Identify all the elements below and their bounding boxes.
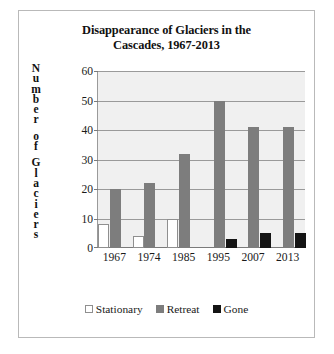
- legend-label: Retreat: [167, 303, 200, 315]
- bar-stationary-1974: [133, 236, 144, 248]
- chart-title-line-1: Disappearance of Glaciers in the: [19, 23, 314, 38]
- y-axis-tick-label: 40: [71, 124, 93, 137]
- y-axis-title-letter: f: [27, 141, 45, 151]
- y-axis-title-letter: r: [27, 114, 45, 124]
- chart-frame: Disappearance of Glaciers in the Cascade…: [18, 10, 315, 338]
- plot-wrapper: 0102030405060 196719741985199520072013: [71, 71, 309, 271]
- bar-group: [98, 71, 133, 248]
- legend-swatch-icon: [156, 305, 164, 313]
- chart-legend: StationaryRetreatGone: [19, 303, 314, 315]
- y-axis-tick-label: 20: [71, 183, 93, 196]
- x-axis-tick-label: 2007: [236, 251, 271, 264]
- x-axis-tick-label: 1995: [201, 251, 236, 264]
- y-axis-tick-label: 30: [71, 153, 93, 166]
- bar-retreat-2007: [248, 127, 259, 248]
- legend-swatch-icon: [213, 305, 221, 313]
- chart-title-line-2: Cascades, 1967-2013: [19, 38, 314, 53]
- bar-group: [167, 71, 202, 248]
- bar-gone-1995: [226, 239, 237, 248]
- bar-gone-2013: [295, 233, 306, 248]
- x-axis-tick-label: 1967: [97, 251, 132, 264]
- bar-retreat-1995: [214, 101, 225, 249]
- bar-gone-2007: [260, 233, 271, 248]
- bar-stationary-1967: [98, 224, 109, 248]
- x-axis-tick-label: 1974: [132, 251, 167, 264]
- legend-label: Gone: [224, 303, 249, 315]
- y-axis-tick-label: 50: [71, 94, 93, 107]
- y-axis-title-letter: s: [27, 229, 45, 239]
- legend-item-stationary[interactable]: Stationary: [85, 303, 143, 315]
- y-axis-tick-labels: 0102030405060: [71, 71, 93, 248]
- bar-retreat-1967: [110, 189, 121, 248]
- bar-retreat-2013: [283, 127, 294, 248]
- bar-group: [133, 71, 168, 248]
- bar-retreat-1985: [179, 154, 190, 248]
- bar-retreat-1974: [144, 183, 155, 248]
- bar-group: [237, 71, 272, 248]
- bar-group: [202, 71, 237, 248]
- bar-group: [271, 71, 306, 248]
- x-axis-tick-labels: 196719741985199520072013: [97, 251, 305, 271]
- legend-item-gone[interactable]: Gone: [213, 303, 249, 315]
- y-axis-tick-label: 60: [71, 65, 93, 78]
- legend-swatch-icon: [85, 305, 93, 313]
- y-axis-title: NumberofGlaciers: [27, 63, 45, 240]
- y-axis-tick-label: 10: [71, 212, 93, 225]
- x-axis-tick-label: 2013: [270, 251, 305, 264]
- legend-label: Stationary: [96, 303, 143, 315]
- legend-item-retreat[interactable]: Retreat: [156, 303, 200, 315]
- bar-stationary-1985: [167, 219, 178, 249]
- y-axis-tick-label: 0: [71, 242, 93, 255]
- plot-area: [97, 71, 305, 248]
- x-axis-tick-label: 1985: [166, 251, 201, 264]
- chart-title: Disappearance of Glaciers in the Cascade…: [19, 23, 314, 53]
